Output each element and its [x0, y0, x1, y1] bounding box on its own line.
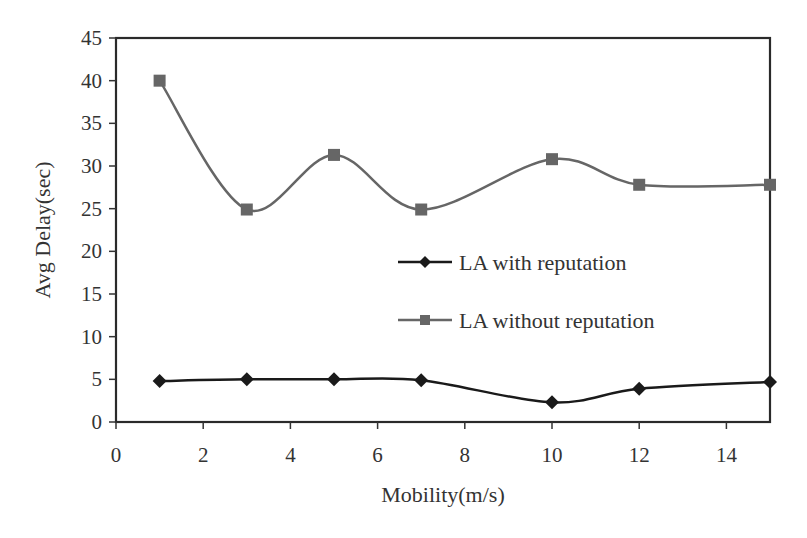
legend-label: LA with reputation [459, 250, 626, 275]
y-tick-label: 40 [81, 69, 102, 93]
diamond-marker-icon [545, 395, 559, 409]
y-tick-label: 5 [92, 367, 103, 391]
x-tick-label: 10 [542, 443, 563, 467]
x-tick-label: 4 [285, 443, 296, 467]
square-marker-icon [420, 315, 430, 325]
x-axis-title: Mobility(m/s) [381, 482, 504, 507]
plot-frame [116, 38, 770, 422]
y-tick-label: 30 [81, 154, 102, 178]
x-tick-label: 12 [629, 443, 650, 467]
x-axis-ticks: 02468101214 [111, 422, 738, 467]
series-without-reputation [154, 75, 776, 216]
diamond-marker-icon [632, 382, 646, 396]
x-tick-label: 8 [460, 443, 471, 467]
legend-item-without-reputation: LA without reputation [398, 308, 655, 333]
square-marker-icon [154, 75, 166, 87]
x-tick-label: 14 [716, 443, 738, 467]
y-tick-label: 10 [81, 325, 102, 349]
diamond-marker-icon [153, 374, 167, 388]
square-marker-icon [633, 179, 645, 191]
legend-label: LA without reputation [459, 308, 655, 333]
square-marker-icon [764, 179, 776, 191]
y-tick-label: 20 [81, 239, 102, 263]
series-line [160, 81, 770, 211]
line-chart: 051015202530354045 02468101214 Mobility(… [0, 0, 807, 538]
y-tick-label: 0 [92, 410, 103, 434]
legend-item-with-reputation: LA with reputation [398, 250, 626, 275]
diamond-marker-icon [414, 373, 428, 387]
y-tick-label: 25 [81, 197, 102, 221]
series-with-reputation [153, 372, 777, 409]
y-axis-ticks: 051015202530354045 [81, 26, 116, 434]
legend: LA with reputation LA without reputation [398, 250, 655, 333]
diamond-marker-icon [419, 256, 431, 268]
series-layer [153, 75, 777, 410]
plot-border [116, 38, 770, 422]
x-tick-label: 2 [198, 443, 209, 467]
diamond-marker-icon [763, 375, 777, 389]
x-tick-label: 6 [372, 443, 383, 467]
square-marker-icon [546, 153, 558, 165]
diamond-marker-icon [327, 372, 341, 386]
y-tick-label: 15 [81, 282, 102, 306]
square-marker-icon [328, 149, 340, 161]
square-marker-icon [415, 204, 427, 216]
diamond-marker-icon [240, 372, 254, 386]
square-marker-icon [241, 204, 253, 216]
y-axis-title: Avg Delay(sec) [30, 161, 55, 298]
x-tick-label: 0 [111, 443, 122, 467]
y-tick-label: 35 [81, 111, 102, 135]
y-tick-label: 45 [81, 26, 102, 50]
